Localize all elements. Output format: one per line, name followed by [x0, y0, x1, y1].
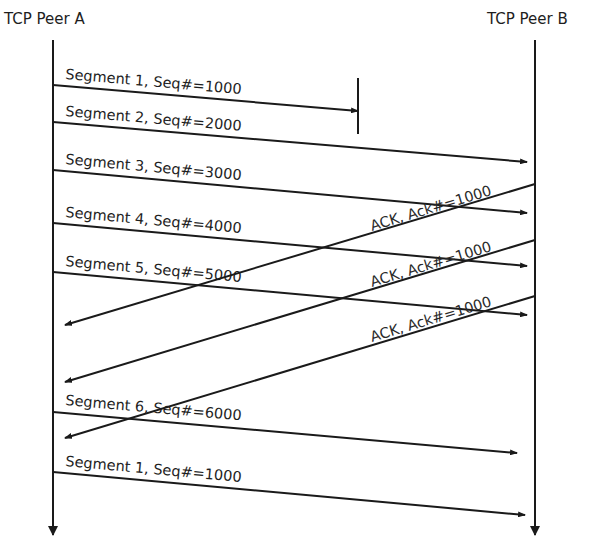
segment-2-label: Segment 2, Seq#=2000 — [65, 103, 243, 134]
ack-3-label: ACK, Ack#=1000 — [368, 293, 493, 344]
tcp-fast-retransmit-diagram: TCP Peer A TCP Peer B Segment 1, Seq#=10… — [0, 0, 600, 558]
segment-1-retransmit-arrow — [53, 472, 525, 515]
segment-6-arrow — [53, 412, 517, 453]
peer-b-label: TCP Peer B — [486, 10, 568, 28]
ack-2-label: ACK, Ack#=1000 — [368, 238, 493, 289]
segment-6-label: Segment 6, Seq#=6000 — [65, 392, 243, 423]
peer-a-label: TCP Peer A — [3, 10, 85, 28]
segment-1-label: Segment 1, Seq#=1000 — [65, 66, 243, 97]
